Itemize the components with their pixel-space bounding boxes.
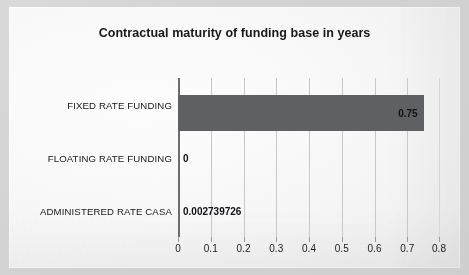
tick-label-0.7: 0.7 <box>400 243 414 254</box>
tick-mark-0.3 <box>276 237 277 242</box>
tick-label-0.5: 0.5 <box>335 243 349 254</box>
tick-label-0.6: 0.6 <box>368 243 382 254</box>
tick-mark-0.7 <box>407 237 408 242</box>
tick-label-0.4: 0.4 <box>302 243 316 254</box>
tick-mark-0.6 <box>375 237 376 242</box>
bar-fixed-rate-funding: 0.75 <box>178 95 424 131</box>
gridline-0.8 <box>439 78 440 237</box>
chart-title: Contractual maturity of funding base in … <box>9 26 460 40</box>
tick-label-0.3: 0.3 <box>269 243 283 254</box>
tick-mark-0.1 <box>211 237 212 242</box>
tick-label-0.2: 0.2 <box>237 243 251 254</box>
category-label-administered-rate-casa: ADMINISTERED RATE CASA <box>40 205 172 216</box>
plot-area: 0.75 0 0.002739726 <box>178 78 440 237</box>
bar-value-floating-rate-funding: 0 <box>183 152 189 163</box>
tick-label-0.8: 0.8 <box>432 243 446 254</box>
tick-mark-0.5 <box>342 237 343 242</box>
tick-mark-0 <box>178 237 179 242</box>
tick-mark-0.4 <box>309 237 310 242</box>
bar-value-fixed-rate-funding: 0.75 <box>398 108 417 119</box>
tick-label-0: 0 <box>175 243 181 254</box>
chart-card: Contractual maturity of funding base in … <box>9 7 460 268</box>
tick-mark-0.2 <box>244 237 245 242</box>
tick-label-0.1: 0.1 <box>204 243 218 254</box>
bar-value-administered-rate-casa: 0.002739726 <box>183 205 241 216</box>
value-axis: 0 0.1 0.2 0.3 0.4 0.5 0.6 0.7 0.8 <box>178 237 440 263</box>
tick-mark-0.8 <box>439 237 440 242</box>
category-label-floating-rate-funding: FLOATING RATE FUNDING <box>48 152 172 163</box>
screenshot-canvas: Contractual maturity of funding base in … <box>0 0 469 275</box>
category-axis-labels: FIXED RATE FUNDING FLOATING RATE FUNDING… <box>9 78 172 237</box>
category-label-fixed-rate-funding: FIXED RATE FUNDING <box>67 99 172 110</box>
